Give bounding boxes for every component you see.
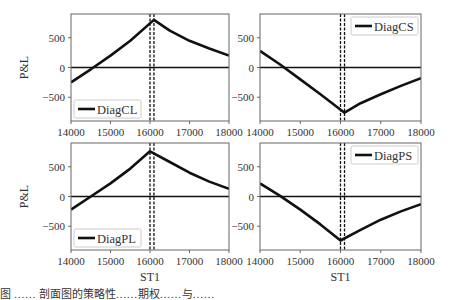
- x-tick-label: 14000: [57, 255, 85, 267]
- x-tick-label: 16000: [136, 126, 164, 138]
- x-axis-label: ST1: [330, 270, 350, 284]
- x-tick-label: 17000: [367, 255, 395, 267]
- x-tick-label: 14000: [246, 255, 274, 267]
- x-tick-label: 18000: [215, 126, 243, 138]
- x-tick-label: 18000: [407, 126, 435, 138]
- figure-caption: 图 …… 剖面图的策略性……期权……与……: [0, 288, 452, 300]
- x-tick-label: 18000: [215, 255, 243, 267]
- y-tick-label: 0: [60, 191, 66, 203]
- legend-label: DiagCS: [374, 20, 414, 34]
- x-tick-label: 15000: [97, 255, 125, 267]
- y-tick-label: 500: [238, 161, 255, 173]
- x-tick-label: 16000: [327, 255, 355, 267]
- x-tick-label: 18000: [407, 255, 435, 267]
- x-tick-label: 17000: [367, 126, 395, 138]
- y-axis-label: P&L: [17, 185, 31, 208]
- legend: DiagPL: [74, 229, 141, 247]
- x-axis-label: ST1: [140, 270, 160, 284]
- subplot-bottom-right: −50005001400015000160001700018000ST1Diag…: [231, 143, 435, 284]
- legend: DiagPS: [351, 146, 418, 164]
- x-tick-label: 15000: [97, 126, 125, 138]
- legend: DiagCL: [74, 100, 141, 118]
- x-tick-label: 14000: [246, 126, 274, 138]
- x-tick-label: 16000: [136, 255, 164, 267]
- subplot-top-left: −50005001400015000160001700018000P&LDiag…: [17, 14, 243, 138]
- subplot-top-right: −50005001400015000160001700018000DiagCS: [231, 14, 435, 138]
- x-tick-label: 17000: [176, 255, 204, 267]
- y-tick-label: 0: [249, 62, 255, 74]
- x-tick-label: 17000: [176, 126, 204, 138]
- y-tick-label: 500: [49, 32, 66, 44]
- subplot-bottom-left: −50005001400015000160001700018000P&LST1D…: [17, 143, 243, 284]
- x-tick-label: 15000: [287, 255, 315, 267]
- legend: DiagCS: [351, 17, 418, 35]
- x-tick-label: 14000: [57, 126, 85, 138]
- legend-label: DiagPL: [97, 232, 136, 246]
- y-tick-label: −500: [42, 91, 65, 103]
- y-tick-label: 0: [60, 62, 66, 74]
- y-tick-label: 0: [249, 191, 255, 203]
- y-tick-label: −500: [231, 220, 254, 232]
- legend-label: DiagCL: [97, 103, 137, 117]
- y-tick-label: −500: [42, 220, 65, 232]
- y-tick-label: −500: [231, 91, 254, 103]
- x-tick-label: 16000: [327, 126, 355, 138]
- legend-label: DiagPS: [374, 149, 412, 163]
- y-tick-label: 500: [238, 32, 255, 44]
- x-tick-label: 15000: [287, 126, 315, 138]
- y-tick-label: 500: [49, 161, 66, 173]
- y-axis-label: P&L: [17, 56, 31, 79]
